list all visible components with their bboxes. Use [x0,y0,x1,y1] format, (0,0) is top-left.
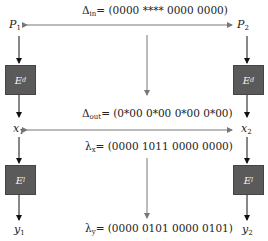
delta-out-label: Δout= (0*00 0*00 0*00 0*00) [82,107,233,123]
p1-label: P1 [9,19,21,34]
ed-box-left: Ed [5,65,36,95]
p2-label: P2 [237,19,249,34]
el-box-right: El [233,165,264,195]
y2-label: y2 [242,224,253,239]
x1-label: x1 [13,123,24,138]
x2-label: x2 [241,123,252,138]
y1-label: y1 [14,224,25,239]
ed-box-right: Ed [233,65,264,95]
lambda-x-label: λx= (0000 1011 0000 0000) [85,140,233,156]
delta-in-label: Δin= (0000 **** 0000 0000) [82,4,228,20]
lambda-y-label: λy= (0000 0101 0000 0101) [85,222,233,238]
el-box-left: El [5,165,36,195]
